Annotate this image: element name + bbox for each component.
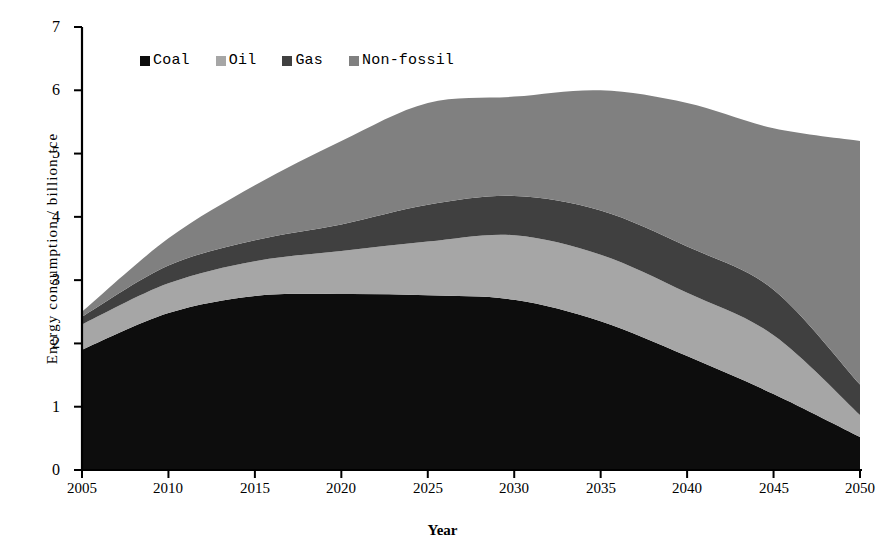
plot-area [0,0,885,552]
stacked-areas [82,90,860,470]
stacked-area-chart: Energy consumption / billion tce 7 6 5 4… [0,0,885,552]
